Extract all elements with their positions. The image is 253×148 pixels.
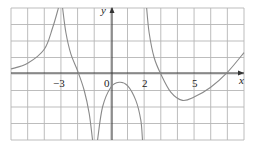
tick-label-neg3: −3 — [53, 77, 65, 89]
tick-label-2: 2 — [142, 77, 148, 89]
curve-branch-1 — [11, 8, 58, 69]
tick-label-0: 0 — [104, 77, 110, 89]
x-axis-label: x — [238, 74, 244, 86]
y-axis-label: y — [100, 4, 106, 16]
function-graph: y x −3 0 2 5 — [0, 0, 253, 148]
grid — [11, 8, 244, 140]
tick-label-5: 5 — [192, 77, 198, 89]
